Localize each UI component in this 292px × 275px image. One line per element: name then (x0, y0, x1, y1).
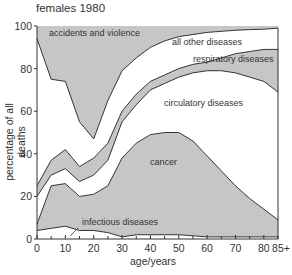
region-label: respiratory diseases (193, 54, 274, 64)
x-tick-label: 80 (258, 242, 270, 254)
region-label: circulatory diseases (164, 98, 244, 108)
y-tick-label: 20 (20, 190, 32, 202)
x-tick-label: 20 (88, 242, 100, 254)
region-label: accidents and violence (49, 28, 140, 38)
x-tick-label: 50 (173, 242, 185, 254)
x-tick-label: 70 (230, 242, 242, 254)
region-label: all other diseases (172, 37, 243, 47)
x-tick-label: 85+ (272, 242, 290, 254)
y-tick-label: 0 (26, 233, 32, 245)
region-label: infectious diseases (82, 217, 159, 227)
y-tick-label: 60 (20, 105, 32, 117)
y-tick-label: 80 (20, 63, 32, 75)
x-tick-label: 10 (60, 242, 72, 254)
y-tick-label: 100 (14, 20, 32, 32)
region-label: cancer (150, 157, 177, 167)
x-tick-label: 30 (116, 242, 128, 254)
plot-area: 0204060801000102030405060708085+ acciden… (0, 0, 292, 275)
stacked-area-chart: females 1980 percentage of all deaths ag… (0, 0, 292, 275)
x-tick-label: 0 (34, 242, 40, 254)
y-tick-label: 40 (20, 148, 32, 160)
x-tick-label: 60 (201, 242, 213, 254)
x-tick-label: 40 (145, 242, 157, 254)
